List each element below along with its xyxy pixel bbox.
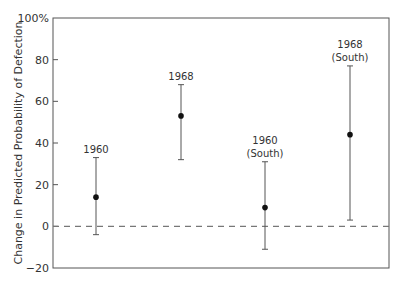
error-bar-point: 1968(South) [332, 39, 369, 220]
y-tick-label: −20 [26, 262, 49, 275]
point-label-year: 1960 [83, 144, 108, 155]
point-estimate-dot [93, 194, 99, 200]
chart: −20020406080100% 196019681960(South)1968… [0, 0, 403, 284]
error-bar-point: 1960 [83, 144, 108, 235]
y-tick-label: 80 [35, 54, 49, 67]
point-label-region: (South) [247, 148, 284, 159]
y-tick-label: 60 [35, 95, 49, 108]
y-tick-label: 40 [35, 137, 49, 150]
point-label-year: 1960 [252, 135, 277, 146]
point-label-year: 1968 [337, 39, 362, 50]
point-label-region: (South) [332, 52, 369, 63]
y-tick-label: 0 [42, 220, 49, 233]
data-points: 196019681960(South)1968(South) [83, 39, 368, 249]
point-estimate-dot [178, 113, 184, 119]
error-bar-point: 1968 [168, 71, 193, 160]
y-axis-title: Change in Predicted Probability of Defec… [12, 21, 25, 264]
point-estimate-dot [262, 205, 268, 211]
error-bar-point: 1960(South) [247, 135, 284, 250]
point-estimate-dot [347, 132, 353, 138]
y-tick-label: 20 [35, 179, 49, 192]
point-label-year: 1968 [168, 71, 193, 82]
